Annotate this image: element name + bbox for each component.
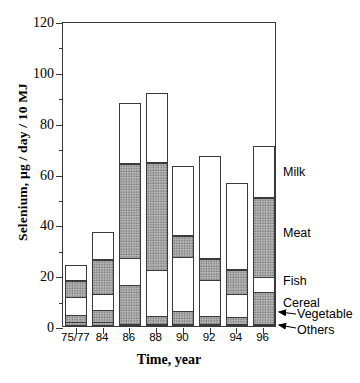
- category-label-milk: Milk: [283, 165, 305, 179]
- segment-others-84[interactable]: [92, 325, 114, 327]
- x-tick-label-94: 94: [229, 331, 242, 343]
- segment-milk-84[interactable]: [92, 232, 114, 260]
- segment-others-96[interactable]: [253, 325, 275, 327]
- y-tick-20: [56, 277, 63, 278]
- y-tick-100: [56, 74, 63, 75]
- segment-meat-84[interactable]: [92, 260, 114, 294]
- x-tick-label-90: 90: [176, 331, 189, 343]
- segment-milk-88[interactable]: [146, 93, 168, 163]
- y-minor-tick-10: [59, 303, 63, 304]
- y-tick-label-0: 0: [47, 320, 54, 336]
- segment-meat-90[interactable]: [172, 236, 194, 258]
- segment-fish-88[interactable]: [146, 270, 168, 316]
- segment-others-86[interactable]: [119, 325, 141, 327]
- x-tick-label-92: 92: [203, 331, 216, 343]
- bar-90[interactable]: [172, 35, 194, 326]
- segment-cereal-86[interactable]: [119, 285, 141, 326]
- x-tick-label-88: 88: [149, 331, 162, 343]
- bar-92[interactable]: [199, 100, 221, 326]
- segment-fish-75-77[interactable]: [65, 297, 87, 316]
- x-tick-label-75-77: 75/77: [61, 331, 90, 343]
- y-tick-60: [56, 176, 63, 177]
- segment-meat-94[interactable]: [226, 270, 248, 295]
- segment-meat-92[interactable]: [199, 259, 221, 281]
- x-axis-title: Time, year: [62, 352, 276, 368]
- segment-milk-75-77[interactable]: [65, 265, 87, 280]
- x-tick-label-96: 96: [256, 331, 269, 343]
- x-tick-label-86: 86: [122, 331, 135, 343]
- segment-fish-92[interactable]: [199, 280, 221, 317]
- category-label-others: Others: [297, 323, 335, 337]
- segment-meat-75-77[interactable]: [65, 281, 87, 299]
- plot-area: 020406080100120: [62, 22, 276, 327]
- y-tick-label-120: 120: [33, 15, 54, 31]
- bar-88[interactable]: [146, 55, 168, 326]
- segment-others-94[interactable]: [226, 325, 248, 327]
- bar-75-77[interactable]: [65, 260, 87, 326]
- y-tick-0: [56, 328, 63, 329]
- y-tick-label-60: 60: [40, 168, 54, 184]
- y-minor-tick-30: [59, 252, 63, 253]
- segment-milk-86[interactable]: [119, 103, 141, 165]
- segment-others-75-77[interactable]: [65, 325, 87, 327]
- segment-milk-92[interactable]: [199, 156, 221, 259]
- segment-milk-94[interactable]: [226, 183, 248, 270]
- segment-meat-96[interactable]: [253, 198, 275, 278]
- segment-fish-86[interactable]: [119, 258, 141, 285]
- segment-others-90[interactable]: [172, 325, 194, 327]
- y-minor-tick-50: [59, 201, 63, 202]
- others-arrow: [279, 325, 296, 328]
- y-minor-tick-110: [59, 48, 63, 49]
- segment-fish-90[interactable]: [172, 257, 194, 311]
- bar-94[interactable]: [226, 178, 248, 326]
- segment-cereal-96[interactable]: [253, 292, 275, 326]
- segment-fish-96[interactable]: [253, 277, 275, 293]
- y-tick-40: [56, 226, 63, 227]
- segment-meat-88[interactable]: [146, 163, 168, 272]
- segment-others-88[interactable]: [146, 325, 168, 327]
- y-tick-label-20: 20: [40, 269, 54, 285]
- segment-meat-86[interactable]: [119, 164, 141, 259]
- category-label-vegetable: Vegetable: [297, 307, 353, 321]
- bar-84[interactable]: [92, 227, 114, 326]
- bar-86[interactable]: [119, 97, 141, 326]
- segment-cereal-90[interactable]: [172, 311, 194, 326]
- y-tick-label-40: 40: [40, 218, 54, 234]
- category-label-meat: Meat: [283, 226, 311, 240]
- segment-fish-84[interactable]: [92, 294, 114, 312]
- segment-milk-96[interactable]: [253, 146, 275, 197]
- y-tick-label-80: 80: [40, 117, 54, 133]
- y-tick-80: [56, 125, 63, 126]
- segment-milk-90[interactable]: [172, 166, 194, 236]
- y-axis-title: Selenium, µg / day / 10 MJ: [12, 12, 34, 312]
- vegetable-arrow: [279, 312, 296, 314]
- segment-fish-94[interactable]: [226, 294, 248, 318]
- x-tick-label-84: 84: [96, 331, 109, 343]
- y-minor-tick-70: [59, 150, 63, 151]
- selenium-stacked-bar-chart: Selenium, µg / day / 10 MJ 0204060801001…: [0, 0, 360, 383]
- bar-96[interactable]: [253, 141, 275, 326]
- segment-others-92[interactable]: [199, 325, 221, 327]
- category-label-fish: Fish: [283, 274, 307, 288]
- y-tick-label-100: 100: [33, 66, 54, 82]
- y-tick-120: [56, 23, 63, 24]
- y-minor-tick-90: [59, 99, 63, 100]
